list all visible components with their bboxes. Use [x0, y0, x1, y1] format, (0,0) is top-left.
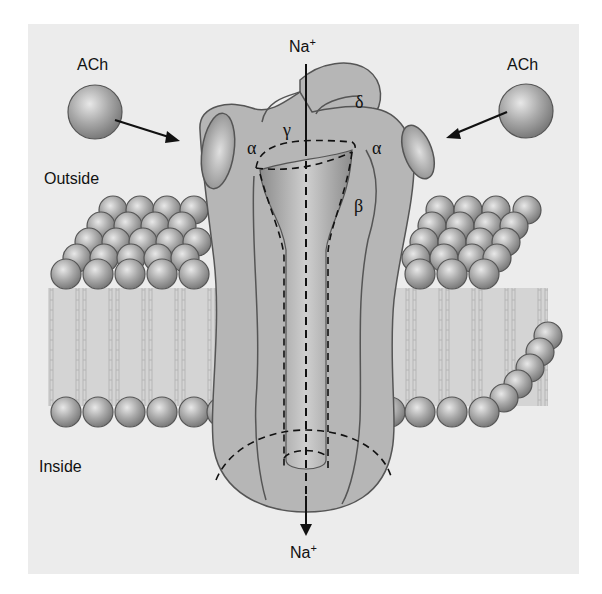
subunit-label-alpha-left: α: [247, 138, 256, 159]
outside-label: Outside: [44, 170, 99, 188]
receptor-diagram: [0, 0, 602, 594]
lipid-heads-top-left: [51, 196, 211, 289]
inside-label: Inside: [39, 458, 82, 476]
ach-label-left: ACh: [77, 56, 108, 74]
na-label-bottom: Na+: [290, 542, 317, 562]
ach-label-right: ACh: [507, 56, 538, 74]
na-symbol-top: Na: [289, 38, 309, 55]
na-charge-bottom: +: [310, 542, 316, 554]
subunit-label-beta: β: [354, 196, 363, 217]
subunit-label-delta: δ: [355, 92, 363, 113]
subunit-label-gamma: γ: [283, 120, 291, 141]
lipid-heads-top-right: [402, 196, 541, 289]
ach-molecule-right: [499, 84, 553, 138]
na-symbol-bottom: Na: [290, 544, 310, 561]
subunit-label-alpha-right: α: [372, 138, 381, 159]
ach-molecule-left: [68, 85, 122, 139]
na-charge-top: +: [309, 36, 315, 48]
na-label-top: Na+: [289, 36, 316, 56]
